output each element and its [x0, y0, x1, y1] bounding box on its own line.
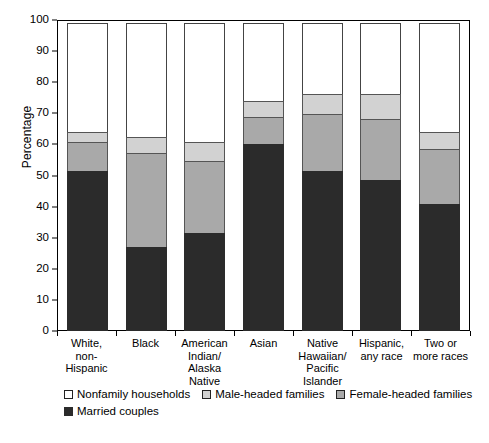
x-axis-label-3: AmericanIndian/AlaskaNative: [175, 337, 234, 387]
y-axis-title: Percentage: [20, 72, 34, 202]
bar-segment-nonfamily: [419, 23, 460, 133]
x-tick-mark: [352, 331, 353, 336]
bar-4: [243, 21, 284, 330]
x-axis-label-line: any race: [352, 350, 411, 363]
bar-segment-nonfamily: [302, 23, 343, 95]
bar-segment-nonfamily: [126, 23, 167, 138]
x-axis-label-1: White,non-Hispanic: [57, 337, 116, 387]
x-tick-mark: [57, 331, 58, 336]
bar-segment-nonfamily: [184, 23, 225, 143]
bar-segment-female: [243, 117, 284, 145]
y-tick-label: 0: [0, 325, 49, 337]
bar-segment-nonfamily: [67, 23, 108, 133]
plot-area: [57, 20, 470, 331]
x-axis-label-line: White,: [57, 337, 116, 350]
legend-label: Nonfamily households: [77, 388, 190, 400]
bar-segment-married: [419, 204, 460, 332]
legend-label: Married couples: [77, 405, 159, 417]
x-axis-label-line: Islander: [293, 375, 352, 388]
bar-3: [184, 21, 225, 330]
x-axis-label-line: Alaska: [175, 362, 234, 375]
bar-segment-male: [302, 94, 343, 116]
x-axis-label-6: Hispanic,any race: [352, 337, 411, 387]
y-tick-label: 30: [0, 232, 49, 244]
bar-segment-female: [67, 142, 108, 172]
bar-segment-male: [126, 137, 167, 154]
stacked-bar-chart: Percentage 0102030405060708090100 White,…: [0, 0, 489, 443]
legend-item-nonfamily[interactable]: Nonfamily households: [64, 388, 190, 400]
chart-legend: Nonfamily householdsMale-headed families…: [64, 388, 484, 422]
bar-6: [360, 21, 401, 330]
x-axis-label-5: NativeHawaiian/PacificIslander: [293, 337, 352, 387]
bar-segment-nonfamily: [360, 23, 401, 95]
x-tick-mark: [116, 331, 117, 336]
bar-segment-male: [184, 142, 225, 162]
x-axis-label-line: more races: [411, 350, 470, 363]
bar-segment-married: [67, 171, 108, 331]
legend-item-male[interactable]: Male-headed families: [202, 388, 324, 400]
y-tick-label: 40: [0, 201, 49, 213]
x-axis-labels: White,non-HispanicBlackAmericanIndian/Al…: [57, 337, 470, 387]
legend-swatch-married-icon: [64, 407, 73, 416]
legend-swatch-female-icon: [336, 390, 345, 399]
x-axis-label-line: Black: [116, 337, 175, 350]
x-axis-label-4: Asian: [234, 337, 293, 387]
x-axis-label-line: non-Hispanic: [57, 350, 116, 375]
x-tick-mark: [175, 331, 176, 336]
bar-segment-male: [360, 94, 401, 120]
bar-5: [302, 21, 343, 330]
bar-segment-married: [126, 247, 167, 331]
x-axis-label-line: American: [175, 337, 234, 350]
legend-swatch-nonfamily-icon: [64, 390, 73, 399]
x-axis-label-line: Native: [175, 375, 234, 388]
y-tick-label: 70: [0, 108, 49, 120]
x-tick-mark: [234, 331, 235, 336]
bar-group: [58, 21, 469, 330]
bar-7: [419, 21, 460, 330]
x-axis-label-7: Two ormore races: [411, 337, 470, 387]
x-axis-label-line: Indian/: [175, 350, 234, 363]
x-tick-mark: [470, 331, 471, 336]
bar-segment-male: [243, 101, 284, 118]
y-tick-label: 80: [0, 76, 49, 88]
x-axis-label-line: Two or: [411, 337, 470, 350]
x-axis-label-line: Hawaiian/: [293, 350, 352, 363]
bar-segment-married: [360, 180, 401, 331]
y-tick-label: 90: [0, 45, 49, 57]
x-axis-label-line: Hispanic,: [352, 337, 411, 350]
x-axis-label-2: Black: [116, 337, 175, 387]
legend-row-1: Nonfamily householdsMale-headed families…: [64, 388, 484, 400]
legend-label: Male-headed families: [215, 388, 324, 400]
bar-segment-married: [302, 171, 343, 331]
legend-label: Female-headed families: [349, 388, 472, 400]
legend-row-2: Married couples: [64, 405, 484, 417]
bar-segment-female: [302, 114, 343, 172]
bar-segment-female: [184, 161, 225, 234]
x-axis-label-line: Asian: [234, 337, 293, 350]
bar-segment-married: [243, 144, 284, 331]
y-tick-label: 10: [0, 294, 49, 306]
x-axis-label-line: Native: [293, 337, 352, 350]
bar-segment-female: [126, 153, 167, 248]
legend-swatch-male-icon: [202, 390, 211, 399]
y-tick-label: 60: [0, 139, 49, 151]
x-tick-mark: [293, 331, 294, 336]
y-tick-label: 100: [0, 14, 49, 26]
bar-segment-male: [419, 132, 460, 149]
x-axis-label-line: Pacific: [293, 362, 352, 375]
bar-segment-female: [419, 149, 460, 205]
bar-segment-married: [184, 233, 225, 331]
legend-item-married[interactable]: Married couples: [64, 405, 159, 417]
x-tick-mark: [411, 331, 412, 336]
legend-item-female[interactable]: Female-headed families: [336, 388, 472, 400]
bar-1: [67, 21, 108, 330]
y-tick-label: 50: [0, 170, 49, 182]
bar-segment-female: [360, 119, 401, 181]
bar-segment-nonfamily: [243, 23, 284, 102]
y-tick-label: 20: [0, 263, 49, 275]
bar-2: [126, 21, 167, 330]
